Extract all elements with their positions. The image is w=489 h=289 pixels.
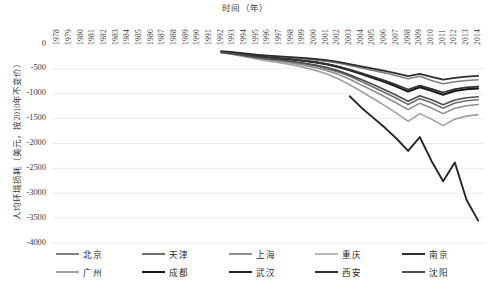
series-line xyxy=(350,96,478,220)
legend-item[interactable]: 沈阳 xyxy=(398,266,484,278)
y-tick-label: -3500 xyxy=(2,213,46,222)
y-tick-label: -2500 xyxy=(2,163,46,172)
legend-color-swatch xyxy=(229,253,252,255)
legend-color-swatch xyxy=(402,271,425,273)
legend-item[interactable]: 西安 xyxy=(311,266,397,278)
x-tick-label: 1993 xyxy=(227,29,236,45)
legend-label: 南京 xyxy=(429,248,449,260)
y-tick-label: -4000 xyxy=(2,238,46,247)
legend-item[interactable]: 成都 xyxy=(138,266,224,278)
x-tick-label: 2008 xyxy=(403,29,412,45)
x-tick-label: 2002 xyxy=(332,29,341,45)
plot-area xyxy=(52,44,484,243)
x-tick-label: 2007 xyxy=(391,29,400,45)
x-tick-label: 1982 xyxy=(99,29,108,45)
x-tick-label: 1987 xyxy=(157,29,166,45)
legend-color-swatch xyxy=(142,253,165,255)
legend-item[interactable]: 北京 xyxy=(52,248,138,260)
x-tick-label: 2005 xyxy=(367,29,376,45)
x-tick-label: 1999 xyxy=(297,29,306,45)
x-tick-label: 2000 xyxy=(309,29,318,45)
x-tick-label: 1983 xyxy=(111,29,120,45)
y-tick-label: -3000 xyxy=(2,188,46,197)
legend-label: 天津 xyxy=(169,248,189,260)
legend-color-swatch xyxy=(402,253,425,255)
x-tick-label: 1985 xyxy=(134,29,143,45)
x-tick-label: 2012 xyxy=(449,29,458,45)
chart-figure: 时间（年） 人均环境损耗（美元，按2010年不变价） 1978197919801… xyxy=(0,0,489,289)
y-tick-label: -2000 xyxy=(2,138,46,147)
legend-label: 西安 xyxy=(342,266,362,278)
x-axis-tick-labels: 1978197919801981198219831984198519861987… xyxy=(0,0,489,44)
x-tick-label: 1992 xyxy=(216,29,225,45)
y-tick-label: -1500 xyxy=(2,113,46,122)
x-tick-label: 2014 xyxy=(473,29,482,45)
x-tick-label: 1990 xyxy=(192,29,201,45)
x-tick-label: 2011 xyxy=(438,29,447,45)
legend-item[interactable]: 南京 xyxy=(398,248,484,260)
legend-label: 北京 xyxy=(83,248,103,260)
legend-color-swatch xyxy=(315,253,338,255)
x-tick-label: 1997 xyxy=(274,29,283,45)
x-tick-label: 2009 xyxy=(414,29,423,45)
legend-label: 上海 xyxy=(256,248,276,260)
y-tick-label: -500 xyxy=(2,63,46,72)
chart-legend: 北京天津上海重庆南京广州成都武汉西安沈阳 xyxy=(52,245,484,285)
legend-item[interactable]: 广州 xyxy=(52,266,138,278)
x-tick-label: 1988 xyxy=(169,29,178,45)
legend-label: 广州 xyxy=(83,266,103,278)
x-tick-label: 1998 xyxy=(286,29,295,45)
x-tick-label: 1980 xyxy=(76,29,85,45)
x-tick-label: 1994 xyxy=(239,29,248,45)
legend-label: 重庆 xyxy=(342,248,362,260)
legend-label: 武汉 xyxy=(256,266,276,278)
x-tick-label: 1989 xyxy=(181,29,190,45)
legend-row: 广州成都武汉西安沈阳 xyxy=(52,263,484,281)
legend-item[interactable]: 武汉 xyxy=(225,266,311,278)
y-tick-label: -1000 xyxy=(2,88,46,97)
x-tick-label: 1984 xyxy=(122,29,131,45)
x-tick-label: 1986 xyxy=(146,29,155,45)
x-tick-label: 2001 xyxy=(321,29,330,45)
legend-item[interactable]: 上海 xyxy=(225,248,311,260)
legend-row: 北京天津上海重庆南京 xyxy=(52,245,484,263)
x-tick-label: 1995 xyxy=(251,29,260,45)
x-tick-label: 1979 xyxy=(64,29,73,45)
legend-label: 沈阳 xyxy=(429,266,449,278)
x-tick-label: 2013 xyxy=(461,29,470,45)
legend-color-swatch xyxy=(142,271,165,273)
legend-label: 成都 xyxy=(169,266,189,278)
x-tick-label: 2004 xyxy=(356,29,365,45)
y-tick-label: 0 xyxy=(2,39,46,48)
legend-color-swatch xyxy=(315,271,338,273)
legend-color-swatch xyxy=(229,271,252,273)
chart-svg xyxy=(52,44,484,244)
legend-color-swatch xyxy=(56,253,79,255)
x-tick-label: 1991 xyxy=(204,29,213,45)
x-tick-label: 1981 xyxy=(87,29,96,45)
x-tick-label: 1978 xyxy=(52,29,61,45)
x-tick-label: 1996 xyxy=(262,29,271,45)
x-tick-label: 2006 xyxy=(379,29,388,45)
x-tick-label: 2003 xyxy=(344,29,353,45)
legend-item[interactable]: 天津 xyxy=(138,248,224,260)
legend-item[interactable]: 重庆 xyxy=(311,248,397,260)
x-tick-label: 2010 xyxy=(426,29,435,45)
legend-color-swatch xyxy=(56,271,79,273)
